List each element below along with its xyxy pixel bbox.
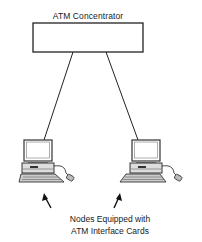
- desktop-computer-icon: [120, 140, 182, 182]
- link-right: [106, 52, 138, 140]
- network-diagram: [0, 0, 202, 242]
- nodes-caption: Nodes Equipped with ATM Interface Cards: [55, 213, 165, 237]
- caption-line-2: ATM Interface Cards: [55, 225, 165, 237]
- link-left: [44, 52, 73, 140]
- arrow-left: [42, 193, 51, 208]
- atm-concentrator-box: [33, 23, 143, 52]
- arrow-right: [114, 193, 122, 208]
- caption-line-1: Nodes Equipped with: [55, 213, 165, 225]
- desktop-computer-icon: [19, 140, 74, 182]
